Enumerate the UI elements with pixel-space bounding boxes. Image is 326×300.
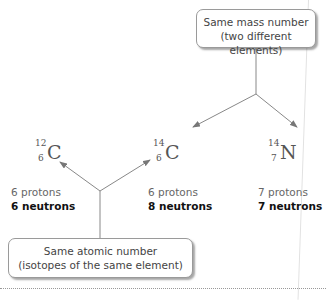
mass-number: 14 bbox=[268, 138, 279, 148]
protons-label: 6 protons bbox=[148, 185, 212, 199]
same-atomic-number-box: Same atomic number (isotopes of the same… bbox=[8, 238, 193, 278]
protons-label: 7 protons bbox=[258, 185, 322, 199]
atomic-number: 7 bbox=[271, 153, 277, 163]
element-symbol: N bbox=[280, 141, 297, 163]
atomic-number: 6 bbox=[38, 153, 44, 163]
neutrons-label: 8 neutrons bbox=[148, 199, 212, 213]
dotted-divider bbox=[0, 288, 326, 289]
atomic-number: 6 bbox=[156, 153, 162, 163]
element-symbol: C bbox=[47, 141, 62, 163]
box-bottom-line2: (isotopes of the same element) bbox=[9, 258, 192, 272]
same-mass-number-box: Same mass number (two different elements… bbox=[196, 9, 316, 48]
box-bottom-line1: Same atomic number bbox=[9, 244, 192, 258]
info-carbon-12: 6 protons 6 neutrons bbox=[11, 185, 75, 213]
arrow-to-14c bbox=[193, 94, 256, 127]
mass-number: 12 bbox=[35, 138, 46, 148]
info-carbon-14: 6 protons 8 neutrons bbox=[148, 185, 212, 213]
box-top-line1: Same mass number bbox=[197, 15, 315, 29]
info-nitrogen-14: 7 protons 7 neutrons bbox=[258, 185, 322, 213]
neutrons-label: 7 neutrons bbox=[258, 199, 322, 213]
arrow-to-14c-bottom bbox=[100, 160, 150, 191]
neutrons-label: 6 neutrons bbox=[11, 199, 75, 213]
box-top-line2: (two different elements) bbox=[197, 29, 315, 57]
element-symbol: C bbox=[165, 141, 180, 163]
protons-label: 6 protons bbox=[11, 185, 75, 199]
arrow-to-14n bbox=[256, 94, 297, 127]
mass-number: 14 bbox=[153, 138, 164, 148]
